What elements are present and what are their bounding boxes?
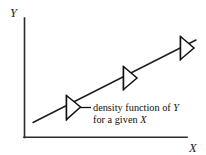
regression-density-diagram: Y X density function of Y for a given X [0, 0, 206, 155]
annotation-line-2: for a given X [93, 114, 147, 125]
annotation-line-2-variable: X [139, 114, 147, 125]
density-shape-2-curve [124, 67, 138, 90]
figure-container: Y X density function of Y for a given X [0, 0, 206, 155]
annotation-line-1-prefix: density function of [93, 102, 173, 113]
annotation-line-2-prefix: for a given [93, 114, 140, 125]
annotation-line-1-variable: Y [173, 102, 180, 113]
density-shape-2 [124, 66, 138, 91]
y-axis-label: Y [10, 6, 19, 20]
x-axis-label: X [188, 141, 198, 155]
density-shape-3 [181, 36, 195, 61]
density-shape-3-curve [181, 37, 195, 60]
annotation-line-1: density function of Y [93, 102, 180, 113]
